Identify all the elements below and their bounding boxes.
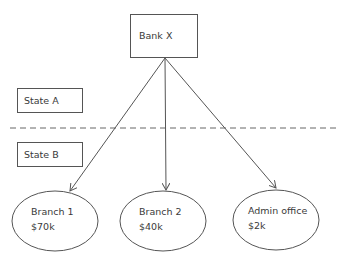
bank-x-node: Bank X [130, 14, 198, 58]
state-a-region-label-box: State A [17, 88, 83, 113]
branch-1-value: $70k [31, 220, 55, 233]
branch-2-value: $40k [139, 220, 163, 233]
branch-1-node-shape [12, 191, 98, 251]
edge-bank-to-branch-2 [165, 58, 166, 190]
edge-bank-to-admin-office [165, 58, 276, 188]
state-a-label: State A [24, 94, 59, 107]
state-b-label: State B [24, 148, 59, 161]
edge-bank-to-branch-1 [70, 58, 165, 191]
admin-office-node-shape [233, 190, 319, 250]
state-b-region-label-box: State B [17, 142, 83, 167]
branch-2-node-shape [120, 191, 206, 251]
admin-office-value: $2k [248, 219, 266, 232]
bank-x-label: Bank X [139, 29, 172, 42]
branch-2-name: Branch 2 [139, 205, 182, 218]
admin-office-name: Admin office [248, 204, 307, 217]
branch-1-name: Branch 1 [31, 205, 74, 218]
